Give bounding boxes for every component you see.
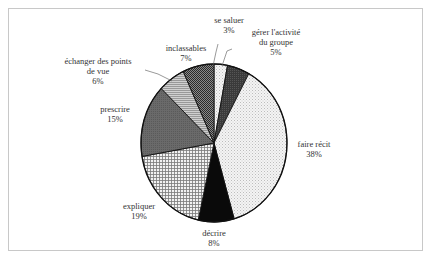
- pie-chart: [0, 0, 436, 259]
- label-decrire: décrire 8%: [202, 228, 226, 248]
- leader-line-echanger: [145, 70, 172, 81]
- label-se-saluer: se saluer 3%: [214, 15, 244, 35]
- label-inclassables: inclassables 7%: [166, 43, 207, 63]
- label-faire-recit: faire récit 38%: [298, 139, 331, 159]
- leader-line-se-saluer: [213, 44, 218, 66]
- label-gerer: gérer l'activité du groupe 5%: [252, 27, 301, 57]
- label-echanger: échanger des points de vue 6%: [64, 56, 131, 86]
- leader-line-gerer: [222, 49, 232, 66]
- label-expliquer: expliquer 19%: [123, 201, 155, 221]
- label-prescrire: prescrire 15%: [100, 104, 130, 124]
